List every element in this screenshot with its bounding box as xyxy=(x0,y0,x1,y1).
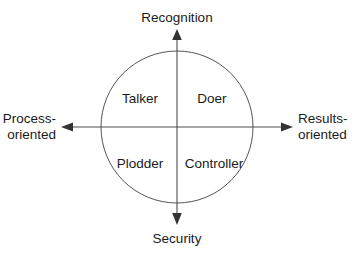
quadrant-label-top-right: Doer xyxy=(197,91,227,106)
arrow-down-icon xyxy=(172,213,182,225)
arrow-right-icon xyxy=(281,122,293,131)
axis-pole-label-left-line2: oriented xyxy=(7,127,56,142)
quadrant-label-bottom-left: Plodder xyxy=(117,156,164,171)
quadrant-label-top-left: Talker xyxy=(122,91,159,106)
arrow-up-icon xyxy=(172,29,182,40)
arrow-left-icon xyxy=(61,122,73,131)
quadrant-label-bottom-right: Controller xyxy=(185,156,244,171)
axis-pole-label-top: Recognition xyxy=(141,10,212,25)
axis-pole-label-left-line1: Process- xyxy=(3,111,56,126)
diagram-canvas: Recognition Security Process- oriented R… xyxy=(0,0,357,256)
axis-pole-label-right-line1: Results- xyxy=(298,111,348,126)
axis-pole-label-bottom: Security xyxy=(153,231,202,246)
quadrant-diagram: Recognition Security Process- oriented R… xyxy=(0,0,357,256)
axis-pole-label-right-line2: oriented xyxy=(298,127,347,142)
